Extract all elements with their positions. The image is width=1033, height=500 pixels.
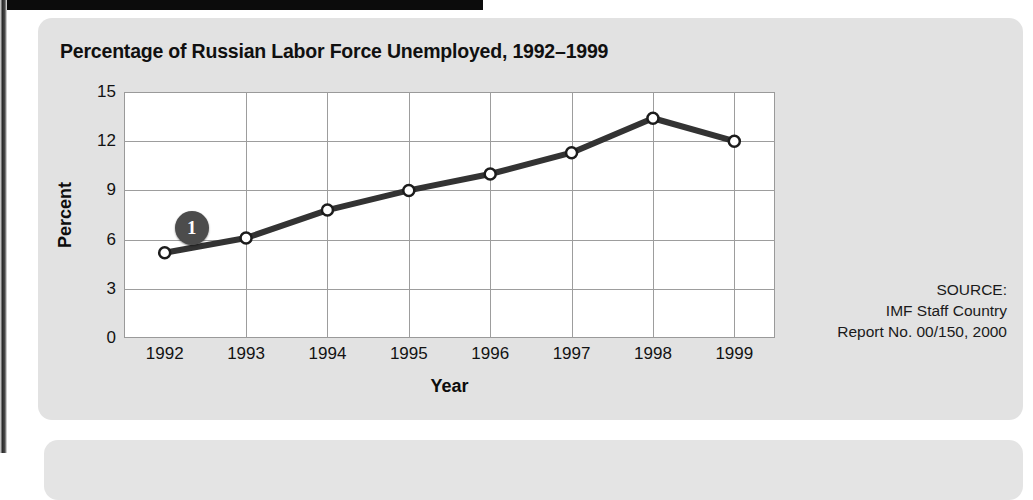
y-axis-label: Percent: [55, 182, 76, 248]
x-tick-label: 1993: [206, 344, 286, 364]
source-line-1: SOURCE:: [747, 280, 1007, 301]
header-black-bar: [7, 0, 483, 10]
x-tick-label: 1997: [532, 344, 612, 364]
series-line-chart: [124, 92, 775, 338]
y-tick-label: 12: [82, 131, 116, 151]
series-polyline: [165, 118, 735, 252]
page-edge-strip: [0, 0, 7, 453]
source-line-3: Report No. 00/150, 2000: [747, 322, 1007, 343]
series-markers: [159, 113, 740, 258]
source-line-2: IMF Staff Country: [747, 301, 1007, 322]
data-point-marker: [322, 205, 333, 216]
callout-badge-1: 1: [175, 211, 209, 245]
y-axis-ticks: 03691215: [78, 92, 116, 338]
secondary-panel: [44, 440, 1023, 500]
data-point-marker: [647, 113, 658, 124]
y-tick-label: 9: [82, 180, 116, 200]
data-point-marker: [241, 232, 252, 243]
figure-panel: Percentage of Russian Labor Force Unempl…: [38, 18, 1023, 420]
y-tick-label: 0: [82, 328, 116, 348]
data-point-marker: [485, 169, 496, 180]
x-tick-label: 1996: [450, 344, 530, 364]
chart-plot-wrapper: 03691215 1992199319941995199619971998199…: [124, 92, 775, 338]
x-tick-label: 1998: [613, 344, 693, 364]
data-point-marker: [729, 136, 740, 147]
data-point-marker: [403, 185, 414, 196]
x-axis-label: Year: [124, 376, 775, 397]
x-tick-label: 1999: [694, 344, 774, 364]
y-tick-label: 3: [82, 279, 116, 299]
x-tick-label: 1995: [369, 344, 449, 364]
source-note: SOURCE: IMF Staff Country Report No. 00/…: [747, 280, 1007, 343]
y-tick-label: 15: [82, 82, 116, 102]
x-tick-label: 1994: [287, 344, 367, 364]
x-tick-label: 1992: [125, 344, 205, 364]
y-tick-label: 6: [82, 230, 116, 250]
data-point-marker: [566, 147, 577, 158]
data-point-marker: [159, 247, 170, 258]
callout-badge-label: 1: [187, 218, 197, 237]
chart-title: Percentage of Russian Labor Force Unempl…: [60, 40, 608, 63]
